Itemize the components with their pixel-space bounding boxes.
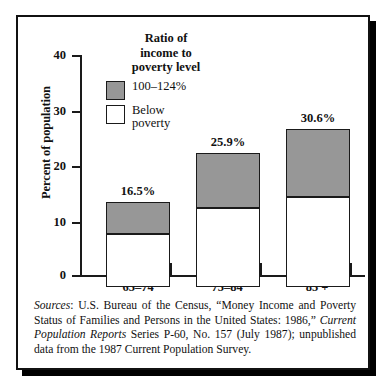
bar-segment-below-poverty-85-plus[interactable] [286,197,350,287]
y-tick-40 [72,55,80,57]
legend-item-below-poverty[interactable]: Below poverty [106,104,256,131]
source-text-part-1: U.S. Bureau of the Census, “Money Income… [34,299,356,327]
legend-title-line-2: income to [106,46,226,61]
x-tick-2 [170,263,172,275]
bar-segment-100-124-65-74[interactable] [106,202,170,235]
y-tick-20 [72,166,80,168]
y-tick-10 [72,222,80,224]
plot-area: Percent of population 40 30 20 10 0 65–7… [18,17,372,287]
bar-total-label-85-plus: 30.6% [263,111,373,126]
legend-label-below-poverty: Below poverty [132,104,170,131]
chart-legend: Ratio of income to poverty level 100–124… [106,31,256,135]
bar-segment-below-poverty-75-84[interactable] [196,208,260,287]
legend-swatch-white [106,105,125,124]
legend-swatch-gray [106,81,125,100]
y-tick-label-20: 20 [26,160,66,172]
bar-group-85-plus[interactable]: 30.6% [286,129,350,287]
legend-title-line-3: poverty level [106,60,226,75]
legend-title-line-1: Ratio of [106,31,226,46]
legend-label-100-124: 100–124% [132,80,186,94]
bar-group-65-74[interactable]: 16.5% [106,202,170,287]
y-axis-line [80,55,82,277]
figure-frame: Percent of population 40 30 20 10 0 65–7… [16,15,370,370]
x-tick-7 [350,263,352,275]
y-tick-label-0: 0 [26,269,66,281]
y-tick-0 [72,275,80,277]
figure-container: Percent of population 40 30 20 10 0 65–7… [16,15,370,370]
bar-total-label-75-84: 25.9% [173,135,283,150]
source-lead: Sources [34,299,70,312]
bar-total-label-65-74: 16.5% [83,184,193,199]
legend-title: Ratio of income to poverty level [106,31,226,75]
bar-segment-below-poverty-65-74[interactable] [106,234,170,287]
bar-group-75-84[interactable]: 25.9% [196,153,260,287]
bar-segment-100-124-85-plus[interactable] [286,129,350,197]
y-tick-label-30: 30 [26,105,66,117]
y-tick-30 [72,111,80,113]
legend-item-100-124[interactable]: 100–124% [106,80,256,100]
x-tick-0 [80,263,82,275]
source-note: Sources: U.S. Bureau of the Census, “Mon… [34,299,356,357]
bar-segment-100-124-75-84[interactable] [196,153,260,208]
y-tick-label-10: 10 [26,216,66,228]
x-tick-5 [260,263,262,275]
y-axis-title: Percent of population [39,53,54,233]
y-tick-label-40: 40 [26,49,66,61]
